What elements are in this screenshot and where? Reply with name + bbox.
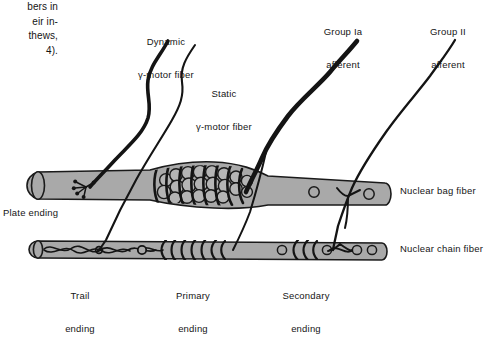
group-ii-line1: Group II [405,26,491,37]
label-secondary-ending: Secondary ending [264,268,348,338]
caption-line-3: thews, [0,29,58,44]
static-gamma-line1: Static [176,88,272,99]
primary-ending-line1: Primary [156,290,230,301]
label-nuclear-bag-fiber: Nuclear bag fiber [400,185,476,196]
label-group-ii-afferent: Group II afferent [405,4,491,92]
trail-ending-line1: Trail [48,290,112,301]
secondary-ending-line1: Secondary [264,290,348,301]
group-ii-line2: afferent [405,59,491,70]
group-ia-line2: afferent [300,59,386,70]
label-primary-ending: Primary ending [156,268,230,338]
caption-line-1: bers in [0,0,58,15]
primary-ending-line2: ending [156,323,230,334]
label-trail-ending: Trail ending [48,268,112,338]
label-nuclear-chain-fiber: Nuclear chain fiber [400,243,483,254]
static-gamma-line2: γ-motor fiber [176,121,272,132]
label-group-ia-afferent: Group Ia afferent [300,4,386,92]
group-ia-line1: Group Ia [300,26,386,37]
trail-ending-line2: ending [48,323,112,334]
caption-line-4: 4). [0,44,58,59]
dynamic-gamma-line1: Dynamic [118,36,214,47]
label-plate-ending: Plate ending [3,207,58,218]
caption-line-2: eir in- [0,15,58,30]
secondary-ending-line2: ending [264,323,348,334]
label-static-gamma-motor-fiber: Static γ-motor fiber [176,66,272,154]
caption-fragment: bers in eir in- thews, 4). [0,0,58,58]
